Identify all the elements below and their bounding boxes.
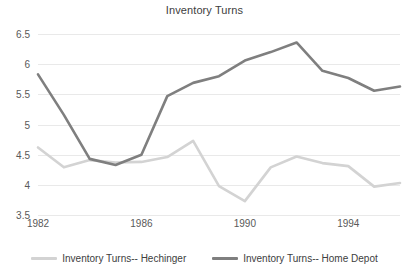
y-axis: 6.565.554.543.5 — [0, 34, 34, 215]
legend-label: Inventory Turns-- Home Depot — [243, 253, 378, 264]
y-axis-tick-label: 6.5 — [16, 29, 30, 40]
plot-area — [38, 34, 400, 215]
y-axis-tick-label: 4.5 — [16, 149, 30, 160]
chart-title: Inventory Turns — [0, 4, 409, 16]
legend-swatch-icon — [31, 257, 57, 260]
legend-swatch-icon — [212, 257, 238, 260]
y-axis-tick-label: 5.5 — [16, 89, 30, 100]
legend-item[interactable]: Inventory Turns-- Hechinger — [31, 253, 186, 264]
series-line — [38, 42, 400, 164]
x-axis-tick-label: 1990 — [234, 218, 256, 229]
inventory-turns-chart: Inventory Turns 6.565.554.543.5 19821986… — [0, 0, 409, 280]
series-line — [38, 141, 400, 201]
y-axis-tick-label: 5 — [24, 119, 30, 130]
gridline — [38, 215, 400, 216]
chart-legend: Inventory Turns-- HechingerInventory Tur… — [0, 248, 409, 268]
y-axis-tick-label: 4 — [24, 179, 30, 190]
x-axis: 1982198619901994 — [38, 218, 400, 234]
x-axis-tick-label: 1994 — [337, 218, 359, 229]
legend-item[interactable]: Inventory Turns-- Home Depot — [212, 253, 378, 264]
legend-label: Inventory Turns-- Hechinger — [62, 253, 186, 264]
series-layer — [38, 34, 400, 215]
x-axis-tick-label: 1982 — [27, 218, 49, 229]
x-axis-tick-label: 1986 — [130, 218, 152, 229]
y-axis-tick-label: 6 — [24, 59, 30, 70]
